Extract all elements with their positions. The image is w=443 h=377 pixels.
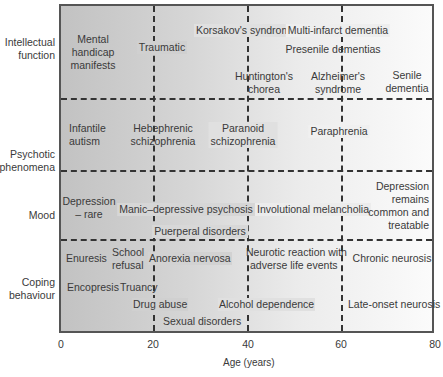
gridline-age-40 [247, 6, 249, 331]
row-label-intellectual-function: Intellectual function [5, 36, 55, 62]
item-traumatic: Traumatic [137, 41, 187, 54]
item-enuresis: Enuresis [66, 252, 107, 265]
x-tick-60: 60 [335, 338, 347, 350]
row-label-line: Psychotic [0, 148, 55, 161]
item-sexual-disorders: Sexual disorders [163, 315, 241, 328]
item-line: Enuresis [66, 252, 107, 265]
item-line: Depression [62, 195, 115, 208]
item-line: Multi-infarct dementia [288, 24, 388, 37]
item-line: adverse life events [246, 259, 347, 272]
item-line: Sexual disorders [163, 315, 241, 328]
row-label-line: behaviour [9, 289, 55, 302]
item-hebephrenic-schizophrenia: Hebephrenic schizophrenia [131, 122, 196, 148]
item-line: schizophrenia [131, 135, 196, 148]
x-tick-20: 20 [147, 338, 159, 350]
item-line: Presenile dementias [285, 43, 380, 56]
item-senile-dementia: Senile dementia [385, 69, 428, 95]
item-line: – rare [62, 208, 115, 221]
item-line: handicap [71, 46, 116, 59]
item-involutional-melancholia: Involutional melancholia [255, 203, 371, 216]
item-line: Infantile [69, 122, 106, 135]
item-korsakovs-syndrome: Korsakov's syndrome [194, 24, 298, 37]
item-line: Encopresis [67, 281, 119, 294]
item-line: chorea [235, 83, 293, 96]
row-divider-2 [61, 170, 432, 172]
row-label-line: Mood [29, 209, 55, 222]
row-divider-3 [61, 239, 432, 241]
item-line: Paranoid [211, 122, 276, 135]
item-manic-depressive-psychosis: Manic–depressive psychosis [117, 203, 255, 216]
item-line: refusal [112, 259, 144, 272]
item-alzheimers-syndrome: Alzheimer's syndrome [311, 70, 365, 96]
item-puerperal-disorders: Puerperal disorders [152, 225, 248, 238]
item-line: Late-onset neurosis [348, 298, 440, 311]
item-mental-handicap: Mental handicap manifests [71, 33, 116, 72]
item-paranoid-schizophrenia: Paranoid schizophrenia [209, 122, 278, 148]
item-line: Paraphrenia [310, 125, 367, 138]
item-line: Puerperal disorders [154, 225, 246, 238]
row-label-line: Intellectual [5, 36, 55, 49]
item-line: common and [368, 206, 429, 219]
item-line: remains [368, 193, 429, 206]
item-school-refusal: School refusal [112, 246, 144, 272]
item-depression-remains-common: Depression remains common and treatable [368, 180, 429, 232]
row-label-psychotic-phenomena: Psychotic phenomena [0, 148, 55, 174]
item-line: syndrome [311, 83, 365, 96]
x-tick-80: 80 [429, 338, 441, 350]
item-line: Manic–depressive psychosis [119, 203, 253, 216]
item-line: School [112, 246, 144, 259]
item-line: Drug abuse [133, 298, 187, 311]
item-encopresis: Encopresis [67, 281, 119, 294]
row-label-line: Coping [9, 276, 55, 289]
x-axis-label: Age (years) [223, 357, 275, 368]
item-neurotic-reaction: Neurotic reaction with adverse life even… [246, 246, 347, 272]
item-multi-infarct-dementia: Multi-infarct dementia [286, 24, 390, 37]
item-line: Traumatic [139, 41, 185, 54]
row-label-line: function [5, 49, 55, 62]
item-truancy: Truancy [120, 281, 158, 294]
item-line: Alzheimer's [311, 70, 365, 83]
item-infantile-autism: Infantile autism [69, 122, 106, 148]
row-divider-1 [61, 98, 432, 100]
item-line: Depression [368, 180, 429, 193]
item-depression-rare: Depression – rare [62, 195, 115, 221]
item-line: Senile [385, 69, 428, 82]
item-huntingtons-chorea: Huntington's chorea [235, 70, 293, 96]
item-line: Mental [71, 33, 116, 46]
item-chronic-neurosis: Chronic neurosis [353, 252, 432, 265]
item-line: Hebephrenic [131, 122, 196, 135]
row-label-mood: Mood [29, 209, 55, 222]
item-line: Alcohol dependence [219, 298, 314, 311]
item-line: Neurotic reaction with [246, 246, 347, 259]
x-tick-0: 0 [58, 338, 64, 350]
x-tick-40: 40 [242, 338, 254, 350]
item-line: manifests [71, 59, 116, 72]
item-line: Huntington's [235, 70, 293, 83]
item-line: Involutional melancholia [257, 203, 369, 216]
item-anorexia-nervosa: Anorexia nervosa [148, 252, 232, 265]
item-paraphrenia: Paraphrenia [308, 125, 369, 138]
item-presenile-dementias: Presenile dementias [285, 43, 380, 56]
item-line: treatable [368, 219, 429, 232]
item-drug-abuse: Drug abuse [132, 298, 188, 311]
item-line: dementia [385, 82, 428, 95]
item-line: Truancy [120, 281, 158, 294]
item-line: schizophrenia [211, 135, 276, 148]
item-alcohol-dependence: Alcohol dependence [218, 298, 315, 311]
row-label-line: phenomena [0, 161, 55, 174]
item-line: Chronic neurosis [353, 252, 432, 265]
item-line: Anorexia nervosa [149, 252, 231, 265]
item-line: autism [69, 135, 106, 148]
row-label-coping-behaviour: Coping behaviour [9, 276, 55, 302]
item-line: Korsakov's syndrome [196, 24, 296, 37]
item-late-onset-neurosis: Late-onset neurosis [348, 298, 440, 311]
